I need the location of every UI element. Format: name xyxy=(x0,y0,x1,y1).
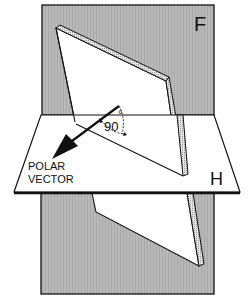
polar-vector-label-line1: POLAR xyxy=(28,160,65,172)
polar-vector-label-line2: VECTOR xyxy=(28,173,74,185)
diagram-canvas: F H 90 ° POLAR VECTOR xyxy=(0,0,251,302)
angle-degree-symbol: ° xyxy=(118,108,122,120)
horizontal-plane-label: H xyxy=(210,169,223,189)
frontal-plane-label: F xyxy=(194,13,206,35)
angle-value-label: 90 xyxy=(104,119,118,134)
